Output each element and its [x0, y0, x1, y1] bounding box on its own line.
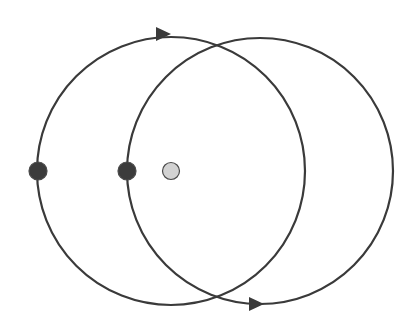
left-dark-point — [29, 162, 47, 180]
diagram-background — [0, 0, 408, 326]
light-point — [163, 163, 180, 180]
two-circle-orbit-diagram — [0, 0, 408, 326]
middle-dark-point — [118, 162, 136, 180]
